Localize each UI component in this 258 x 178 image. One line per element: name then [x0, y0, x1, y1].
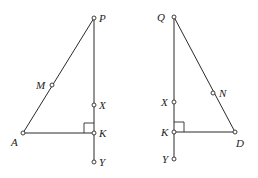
point-X-right	[172, 100, 176, 104]
point-Y-left	[92, 160, 96, 164]
point-K-left	[92, 131, 96, 135]
label-Y-left: Y	[99, 156, 107, 168]
segment-QD	[174, 17, 235, 132]
point-K-right	[172, 130, 176, 134]
point-A	[21, 131, 25, 135]
point-D	[233, 130, 237, 134]
label-Y-right: Y	[162, 153, 170, 165]
label-M: M	[35, 79, 46, 91]
point-Y-right	[172, 157, 176, 161]
label-K-right: K	[160, 126, 169, 138]
label-P: P	[98, 12, 106, 24]
label-Q: Q	[157, 11, 165, 23]
point-N	[211, 91, 215, 95]
label-D: D	[235, 137, 244, 149]
segment-PA	[23, 18, 94, 133]
left-triangle-figure: P M X A K Y	[10, 12, 107, 168]
label-X-left: X	[98, 99, 107, 111]
point-P	[92, 16, 96, 20]
label-N: N	[218, 87, 227, 99]
label-K-left: K	[98, 127, 107, 139]
point-M	[50, 83, 54, 87]
geometry-diagram: P M X A K Y Q N X K D Y	[0, 0, 258, 178]
point-X-left	[92, 103, 96, 107]
point-Q	[172, 15, 176, 19]
label-X-right: X	[160, 96, 169, 108]
right-triangle-figure: Q N X K D Y	[157, 11, 244, 165]
label-A: A	[10, 136, 18, 148]
